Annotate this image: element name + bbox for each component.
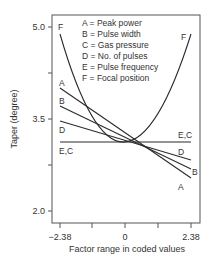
y-tick-label: 2.0 (32, 206, 45, 216)
x-tick-label: −2.38 (49, 232, 72, 242)
x-axis (60, 223, 191, 228)
series-b-pulse-width (60, 106, 191, 169)
legend-entry-a: A = Peak power (82, 18, 142, 28)
label-d-right: D (178, 147, 184, 157)
label-b-left: B (59, 96, 65, 106)
y-tick-label: 3.5 (32, 114, 45, 124)
legend-entry-f: F = Focal position (82, 73, 150, 83)
y-axis (48, 27, 52, 211)
label-f-right: F (181, 32, 186, 42)
label-d-left: D (59, 125, 65, 135)
legend-entry-d: D = No. of pulses (82, 51, 147, 61)
label-ec-left: E,C (59, 146, 73, 156)
legend-entry-b: B = Pulse width (82, 29, 141, 39)
x-tick-label: 2.38 (182, 232, 200, 242)
label-b-right: B (192, 167, 198, 177)
x-tick-label: 0 (122, 232, 127, 242)
y-axis-label: Taper (degree) (9, 89, 19, 148)
legend-entry-e: E = Pulse frequency (82, 62, 159, 72)
y-tick-label: 5.0 (32, 22, 45, 32)
label-ec-right: E,C (178, 130, 192, 140)
label-a-left: A (59, 78, 65, 88)
legend: A = Peak power B = Pulse width C = Gas p… (82, 18, 159, 83)
series-a-peak-power (60, 88, 191, 178)
label-f-left: F (58, 22, 63, 32)
legend-entry-c: C = Gas pressure (82, 40, 149, 50)
x-axis-label: Factor range in coded values (69, 244, 186, 254)
taper-chart: 5.0 3.5 2.0 −2.38 0 2.38 Factor range in… (0, 0, 211, 268)
label-a-right: A (178, 182, 184, 192)
series-d-no-of-pulses (60, 121, 191, 160)
